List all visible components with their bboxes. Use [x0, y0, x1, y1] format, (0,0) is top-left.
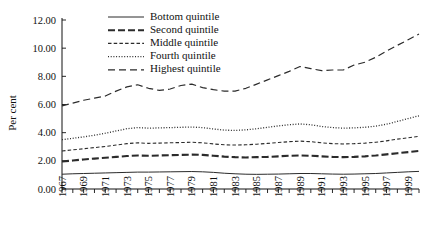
x-tick-label: 1987 — [273, 176, 284, 197]
x-tick-label: 1983 — [230, 176, 241, 197]
x-tick-label: 1981 — [208, 176, 219, 197]
x-tick-label: 1979 — [186, 176, 197, 197]
y-tick-label: 12.00 — [32, 15, 56, 26]
x-tick-label: 1997 — [381, 176, 392, 197]
y-tick-label: 4.00 — [38, 127, 56, 138]
y-tick-label: 10.00 — [32, 43, 56, 54]
y-axis-ticks: 0.002.004.006.008.0010.0012.00 — [32, 15, 66, 195]
y-tick-label: 2.00 — [38, 155, 56, 166]
y-axis-title: Per cent — [6, 95, 18, 131]
y-tick-label: 6.00 — [38, 99, 56, 110]
quintile-line-chart: Per cent 0.002.004.006.008.0010.0012.00 … — [0, 0, 426, 238]
chart-container: Per cent 0.002.004.006.008.0010.0012.00 … — [0, 0, 426, 238]
x-tick-label: 1977 — [165, 176, 176, 197]
series-group — [62, 34, 419, 174]
series-line-second-quintile — [62, 151, 419, 162]
x-tick-label: 1969 — [78, 176, 89, 197]
y-tick-label: 8.00 — [38, 71, 56, 82]
x-tick-label: 1971 — [100, 176, 111, 197]
legend-label: Second quintile — [150, 23, 219, 35]
series-line-highest-quintile — [62, 34, 419, 106]
x-tick-label: 1985 — [251, 176, 262, 197]
x-tick-label: 1995 — [360, 176, 371, 197]
series-line-bottom-quintile — [62, 171, 419, 174]
legend-label: Fourth quintile — [150, 49, 216, 61]
x-tick-label: 1999 — [403, 176, 414, 197]
x-tick-label: 1993 — [338, 176, 349, 197]
x-tick-label: 1991 — [316, 176, 327, 197]
y-tick-label: 0.00 — [38, 184, 56, 195]
legend-label: Middle quintile — [150, 36, 218, 48]
series-line-fourth-quintile — [62, 116, 419, 140]
x-tick-label: 1973 — [122, 176, 133, 197]
legend-label: Bottom quintile — [150, 10, 219, 22]
chart-legend: Bottom quintileSecond quintileMiddle qui… — [108, 10, 221, 75]
x-tick-label: 1975 — [143, 176, 154, 197]
y-axis-title-group: Per cent — [6, 95, 18, 131]
x-tick-label: 1989 — [295, 176, 306, 197]
x-axis-ticks: 1967196919711973197519771979198119831985… — [57, 176, 419, 197]
series-line-middle-quintile — [62, 136, 419, 151]
legend-label: Highest quintile — [150, 62, 221, 74]
